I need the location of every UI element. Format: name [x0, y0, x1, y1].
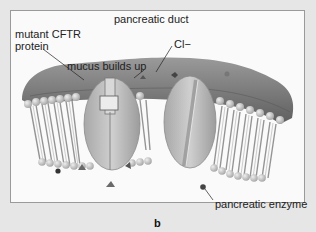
label-pancreatic-enzyme: pancreatic enzyme	[215, 198, 307, 210]
channel-protein	[164, 76, 216, 168]
label-mutant-cftr-line2: protein	[15, 40, 49, 52]
label-mucus-builds-up: mucus builds up	[67, 60, 147, 72]
mutant-cftr-protein	[84, 78, 140, 170]
label-mutant-cftr-line1: mutant CFTR	[15, 28, 81, 40]
panel-letter: b	[154, 217, 161, 229]
label-chloride-ion: Cl−	[174, 38, 191, 50]
label-pancreatic-duct: pancreatic duct	[114, 13, 189, 25]
mucus-layer	[22, 57, 293, 124]
